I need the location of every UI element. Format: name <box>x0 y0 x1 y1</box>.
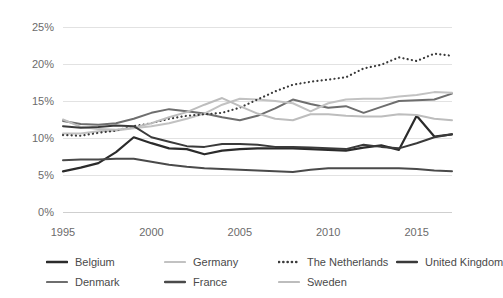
x-tick-label: 2010 <box>316 226 340 238</box>
legend-swatch-icon <box>46 277 68 287</box>
legend-item-france[interactable]: France <box>164 272 227 292</box>
legend-item-the-netherlands[interactable]: The Netherlands <box>278 252 388 272</box>
x-tick-label: 1995 <box>51 226 75 238</box>
y-tick-label: 10% <box>32 132 54 144</box>
legend-label: France <box>193 276 227 288</box>
series-line-belgium <box>63 116 452 172</box>
x-tick-label: 2005 <box>228 226 252 238</box>
legend-label: Germany <box>193 256 238 268</box>
legend-row: BelgiumGermanyThe NetherlandsUnited King… <box>46 252 460 272</box>
legend-swatch-icon <box>164 257 186 267</box>
legend-swatch-icon <box>164 277 186 287</box>
series-line-france <box>63 159 452 172</box>
y-tick-label: 20% <box>32 58 54 70</box>
legend-item-germany[interactable]: Germany <box>164 252 238 272</box>
legend-item-united-kingdom[interactable]: United Kingdom <box>396 252 503 272</box>
x-tick-label: 2015 <box>404 226 428 238</box>
legend-swatch-icon <box>396 257 418 267</box>
legend-swatch-icon <box>46 257 68 267</box>
y-tick-label: 0% <box>38 206 54 218</box>
plot-area: 0%5%10%15%20%25%19952000200520102015 <box>0 0 460 248</box>
series-line-the-netherlands <box>63 54 452 136</box>
chart-legend: BelgiumGermanyThe NetherlandsUnited King… <box>46 252 460 296</box>
legend-label: Sweden <box>307 276 347 288</box>
legend-item-sweden[interactable]: Sweden <box>278 272 347 292</box>
x-tick-label: 2000 <box>139 226 163 238</box>
legend-swatch-icon <box>278 277 300 287</box>
legend-item-belgium[interactable]: Belgium <box>46 252 115 272</box>
legend-label: Belgium <box>75 256 115 268</box>
series-line-denmark <box>63 94 452 125</box>
y-tick-label: 25% <box>32 21 54 33</box>
y-tick-label: 5% <box>38 169 54 181</box>
y-tick-label: 15% <box>32 95 54 107</box>
legend-swatch-icon <box>278 257 300 267</box>
chart-svg: 0%5%10%15%20%25%19952000200520102015 <box>0 0 460 248</box>
legend-label: Denmark <box>75 276 120 288</box>
legend-label: United Kingdom <box>425 256 503 268</box>
legend-item-denmark[interactable]: Denmark <box>46 272 120 292</box>
legend-label: The Netherlands <box>307 256 388 268</box>
legend-row: DenmarkFranceSweden <box>46 272 460 292</box>
